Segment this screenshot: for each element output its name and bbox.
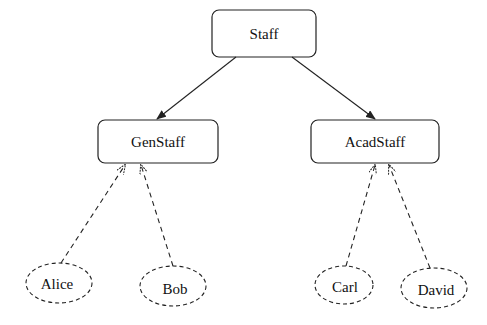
acadstaff-label: AcadStaff — [345, 134, 406, 151]
edge-alice-genstaff — [61, 165, 125, 263]
edge-david-acadstaff — [389, 165, 430, 268]
alice-label: Alice — [41, 276, 73, 293]
staff-label: Staff — [250, 26, 279, 43]
bob-label: Bob — [162, 281, 187, 298]
carl-label: Carl — [332, 279, 358, 296]
edge-bob-genstaff — [141, 165, 173, 266]
genstaff-label: GenStaff — [131, 134, 185, 151]
edge-staff-acadstaff — [292, 57, 375, 119]
david-label: David — [418, 282, 455, 299]
edge-staff-genstaff — [157, 57, 236, 119]
edge-carl-acadstaff — [346, 165, 375, 266]
